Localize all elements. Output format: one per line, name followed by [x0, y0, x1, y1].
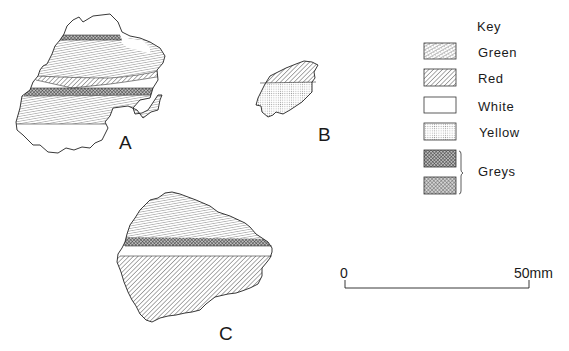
swatch-grey-medium	[424, 177, 456, 194]
swatch-green	[424, 43, 456, 59]
key-title: Key	[477, 20, 501, 33]
sherd-c-label: C	[219, 324, 233, 343]
swatch-yellow	[424, 123, 456, 140]
swatch-white	[424, 97, 456, 113]
sherd-b	[250, 55, 325, 120]
greys-bracket	[459, 151, 463, 194]
sherd-b-label: B	[318, 125, 331, 144]
key-swatches	[424, 43, 456, 194]
scale-end-label: 50mm	[514, 266, 553, 280]
key-label-white: White	[478, 100, 514, 113]
key-label-red: Red	[478, 72, 504, 85]
key-label-green: Green	[478, 46, 517, 59]
key-label-yellow: Yellow	[479, 126, 520, 139]
sherd-a	[0, 0, 180, 160]
swatch-red	[424, 69, 456, 86]
swatch-grey-dark	[424, 150, 456, 167]
scale-bar	[345, 280, 529, 288]
sherd-a-label: A	[119, 133, 132, 152]
key-label-greys: Greys	[478, 165, 516, 178]
sherd-c	[110, 185, 280, 325]
scale-start-label: 0	[340, 266, 348, 280]
